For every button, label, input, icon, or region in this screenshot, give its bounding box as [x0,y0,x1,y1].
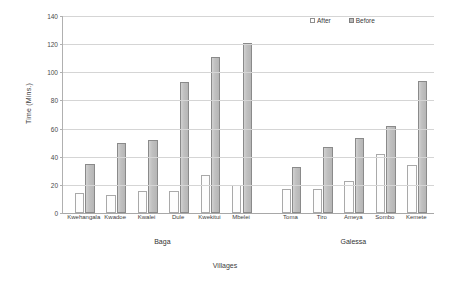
chart-legend: After Before [310,17,375,24]
bar-after-dule [169,191,178,214]
bar-before-dule [180,82,189,213]
y-tick-label-60: 60 [28,125,58,132]
y-tick-label-140: 140 [28,13,58,20]
x-tick-label-kemete: Kemete [406,214,427,220]
gridline-80 [63,100,434,101]
gridline-20 [63,185,434,186]
y-tick-mark-100 [60,72,63,73]
y-tick-label-80: 80 [28,97,58,104]
x-tick-label-tiro: Tiro [317,214,327,220]
bar-before-kwekitui [211,57,220,213]
x-axis-group-labels: BagaGalessa [62,238,434,252]
gridline-140 [63,16,434,17]
x-tick-label-kwalei: Kwalei [138,214,156,220]
x-axis-category-labels: KwehangalaKwadoeKwaleiDuleKwekituiMbelei… [62,214,434,228]
legend-swatch-after-icon [310,18,315,23]
bar-before-kwehangala [85,164,94,213]
gridline-60 [63,129,434,130]
x-tick-label-kwekitui: Kwekitui [198,214,220,220]
bar-chart: Time (Mins.) 020406080100120140 Kwehanga… [0,0,450,284]
x-tick-label-kwehangala: Kwehangala [67,214,100,220]
bars-layer [63,16,434,213]
x-group-label-baga: Baga [154,238,170,245]
y-tick-mark-80 [60,100,63,101]
gridline-40 [63,157,434,158]
x-tick-label-ameya: Ameya [344,214,363,220]
x-tick-label-toma: Toma [283,214,298,220]
y-tick-label-120: 120 [28,41,58,48]
bar-after-sombo [376,154,385,213]
legend-label-before: Before [356,17,375,24]
bar-after-mbelei [232,185,241,213]
y-tick-mark-140 [60,16,63,17]
bar-before-ameya [355,138,364,213]
bar-after-toma [282,189,291,213]
y-tick-label-100: 100 [28,69,58,76]
bar-after-kemete [407,165,416,213]
bar-after-kwehangala [75,193,84,213]
y-tick-mark-60 [60,129,63,130]
legend-swatch-before-icon [349,18,354,23]
x-group-label-galessa: Galessa [341,238,367,245]
bar-before-sombo [386,126,395,213]
bar-after-tiro [313,189,322,213]
y-tick-mark-20 [60,185,63,186]
gridline-100 [63,72,434,73]
bar-after-kwalei [138,191,147,214]
y-tick-mark-40 [60,157,63,158]
bar-after-kwekitui [201,175,210,213]
legend-item-before[interactable]: Before [349,17,375,24]
bar-after-kwadoe [106,195,115,213]
gridline-120 [63,44,434,45]
y-tick-label-0: 0 [28,210,58,217]
x-tick-label-sombo: Sombo [375,214,394,220]
y-tick-mark-120 [60,44,63,45]
legend-item-after[interactable]: After [310,17,331,24]
plot-area [62,16,434,213]
bar-before-kwadoe [117,143,126,213]
bar-before-kwalei [148,140,157,213]
legend-label-after: After [317,17,331,24]
y-tick-label-20: 20 [28,181,58,188]
x-tick-label-kwadoe: Kwadoe [104,214,126,220]
x-tick-label-mbelei: Mbelei [232,214,250,220]
y-tick-label-40: 40 [28,153,58,160]
x-axis-title: Villages [0,262,450,269]
bar-before-toma [292,167,301,213]
x-tick-label-dule: Dule [172,214,184,220]
